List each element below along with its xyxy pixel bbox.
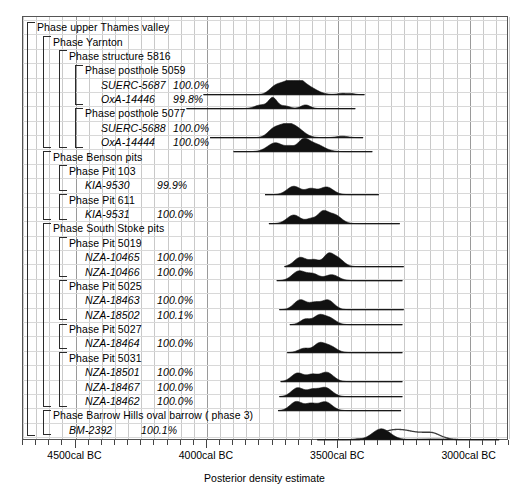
- sample-row[interactable]: KIA-953099.9%: [23, 178, 507, 192]
- axis-tick-label: 3500cal BC: [310, 449, 364, 461]
- phase-label: Phase South Stoke pits: [53, 223, 164, 234]
- phase-row[interactable]: Phase upper Thames valley: [23, 20, 507, 34]
- axis-tick-minor: [61, 440, 62, 445]
- phase-row[interactable]: Phase South Stoke pits: [23, 221, 507, 235]
- phase-label: Phase posthole 5059: [85, 65, 186, 76]
- sample-row[interactable]: NZA-10465100.0%: [23, 250, 507, 264]
- phase-row[interactable]: Phase Pit 5025: [23, 279, 507, 293]
- agreement-index: 100.0%: [173, 79, 209, 90]
- agreement-index: 99.8%: [173, 94, 203, 105]
- phase-label: Phase posthole 5077: [85, 108, 186, 119]
- phase-label: Phase Pit 5019: [69, 237, 142, 248]
- sample-row[interactable]: KIA-9531100.0%: [23, 207, 507, 221]
- agreement-index: 100.0%: [157, 396, 193, 407]
- sample-row[interactable]: NZA-18462100.0%: [23, 394, 507, 408]
- phase-label: Phase Pit 5025: [69, 280, 142, 291]
- axis-tick-minor: [495, 440, 496, 445]
- axis-tick-label: 4500cal BC: [47, 449, 101, 461]
- phase-label: Phase upper Thames valley: [37, 22, 169, 33]
- sample-label: KIA-9530: [85, 180, 130, 191]
- phase-row[interactable]: Phase Yarnton: [23, 34, 507, 48]
- axis-tick-minor: [298, 440, 299, 445]
- axis-tick-minor: [390, 440, 391, 445]
- sample-row[interactable]: SUERC-5688100.0%: [23, 121, 507, 135]
- sample-label: NZA-18467: [85, 381, 140, 392]
- phase-row[interactable]: Phase posthole 5077: [23, 106, 507, 120]
- phase-row[interactable]: Phase posthole 5059: [23, 63, 507, 77]
- phase-row[interactable]: Phase Pit 5027: [23, 322, 507, 336]
- sample-label: NZA-18501: [85, 367, 140, 378]
- axis-tick-minor: [350, 440, 351, 445]
- sample-label: NZA-10466: [85, 266, 140, 277]
- sample-label: NZA-18462: [85, 396, 140, 407]
- axis-tick-minor: [153, 440, 154, 445]
- axis-tick-minor: [114, 440, 115, 445]
- phase-label: Phase Barrow Hills oval barrow ( phase 3…: [53, 410, 253, 421]
- sample-row[interactable]: NZA-18501100.0%: [23, 365, 507, 379]
- phase-row[interactable]: Phase Pit 103: [23, 164, 507, 178]
- phase-row[interactable]: Phase Pit 611: [23, 193, 507, 207]
- agreement-index: 100.0%: [173, 122, 209, 133]
- axis-tick-minor: [377, 440, 378, 445]
- sample-row[interactable]: OxA-14444100.0%: [23, 135, 507, 149]
- axis-tick-minor: [442, 440, 443, 445]
- axis-tick-minor: [258, 440, 259, 445]
- sample-row[interactable]: SUERC-5687100.0%: [23, 78, 507, 92]
- axis-tick-minor: [324, 440, 325, 445]
- axis-tick-minor: [140, 440, 141, 445]
- agreement-index: 100.0%: [157, 266, 193, 277]
- axis-tick-minor: [482, 440, 483, 445]
- agreement-index: 100.0%: [157, 338, 193, 349]
- gridline-row: [23, 437, 507, 438]
- phase-row[interactable]: Phase structure 5816: [23, 49, 507, 63]
- sample-row[interactable]: NZA-18467100.0%: [23, 380, 507, 394]
- axis-tick-major: [337, 440, 338, 448]
- axis-tick-minor: [508, 440, 509, 445]
- phase-row[interactable]: Phase Pit 5031: [23, 351, 507, 365]
- sample-row[interactable]: BM-2392100.1%: [23, 423, 507, 437]
- axis-tick-minor: [219, 440, 220, 445]
- sample-label: NZA-10465: [85, 252, 140, 263]
- axis-tick-minor: [88, 440, 89, 445]
- phase-row[interactable]: Phase Benson pits: [23, 149, 507, 163]
- axis-tick-minor: [232, 440, 233, 445]
- axis-tick-major: [206, 440, 207, 448]
- plot-area: Phase upper Thames valleyPhase YarntonPh…: [22, 16, 508, 440]
- axis-tick-minor: [456, 440, 457, 445]
- axis-tick-minor: [167, 440, 168, 445]
- axis-tick-minor: [101, 440, 102, 445]
- sample-row[interactable]: NZA-18502100.1%: [23, 308, 507, 322]
- phase-row[interactable]: Phase Pit 5019: [23, 236, 507, 250]
- agreement-index: 100.1%: [157, 309, 193, 320]
- sample-label: OxA-14446: [101, 94, 155, 105]
- agreement-index: 99.9%: [157, 180, 187, 191]
- phase-label: Phase Pit 5027: [69, 324, 142, 335]
- axis-tick-minor: [364, 440, 365, 445]
- axis-tick-minor: [272, 440, 273, 445]
- sample-label: KIA-9531: [85, 209, 130, 220]
- agreement-index: 100.1%: [141, 424, 177, 435]
- sample-row[interactable]: NZA-18463100.0%: [23, 293, 507, 307]
- agreement-index: 100.0%: [157, 367, 193, 378]
- sample-label: BM-2392: [69, 424, 112, 435]
- axis-tick-minor: [429, 440, 430, 445]
- axis-tick-major: [469, 440, 470, 448]
- radiocarbon-multiplot: Phase upper Thames valleyPhase YarntonPh…: [0, 0, 529, 493]
- sample-row[interactable]: NZA-10466100.0%: [23, 264, 507, 278]
- axis-tick-minor: [127, 440, 128, 445]
- agreement-index: 100.0%: [157, 381, 193, 392]
- sample-row[interactable]: OxA-1444699.8%: [23, 92, 507, 106]
- phase-label: Phase structure 5816: [69, 50, 171, 61]
- axis-tick-major: [75, 440, 76, 448]
- agreement-index: 100.0%: [157, 295, 193, 306]
- sample-row[interactable]: NZA-18464100.0%: [23, 336, 507, 350]
- agreement-index: 100.0%: [157, 209, 193, 220]
- axis-tick-minor: [245, 440, 246, 445]
- phase-label: Phase Yarnton: [53, 36, 123, 47]
- axis-tick-label: 4000cal BC: [179, 449, 233, 461]
- phase-label: Phase Pit 611: [69, 194, 135, 205]
- phase-label: Phase Pit 103: [69, 165, 136, 176]
- sample-label: NZA-18502: [85, 309, 140, 320]
- phase-row[interactable]: Phase Barrow Hills oval barrow ( phase 3…: [23, 408, 507, 422]
- x-axis-title: Posterior density estimate: [0, 472, 529, 484]
